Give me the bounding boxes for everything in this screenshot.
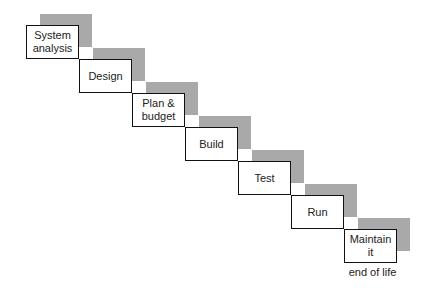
step-label: Maintain it xyxy=(350,233,392,259)
step-design: Design xyxy=(79,59,132,93)
step-label: System analysis xyxy=(33,29,73,55)
step-label: Run xyxy=(307,206,327,219)
step-run: Run xyxy=(291,195,344,229)
end-of-life-label: end of life xyxy=(346,266,399,278)
step-label: Build xyxy=(199,138,223,151)
step-label: Design xyxy=(88,70,122,83)
step-build: Build xyxy=(185,127,238,161)
step-system-analysis: System analysis xyxy=(26,25,79,59)
step-label: Plan & budget xyxy=(142,97,176,123)
step-label: Test xyxy=(254,172,274,185)
step-maintain-it: Maintain it xyxy=(344,229,397,263)
waterfall-diagram: System analysis Design Plan & budget Bui… xyxy=(0,0,430,290)
step-plan-budget: Plan & budget xyxy=(132,93,185,127)
step-test: Test xyxy=(238,161,291,195)
